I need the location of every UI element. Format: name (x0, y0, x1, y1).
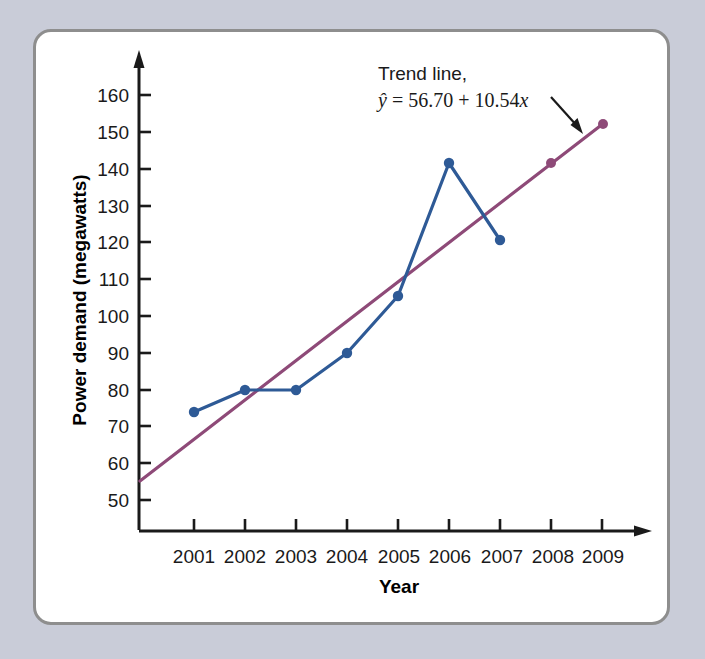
y-axis-ticks (139, 95, 151, 500)
y-tick-label-150: 150 (97, 122, 129, 143)
x-tick-label-2002: 2002 (224, 546, 266, 567)
y-axis-tick-labels: 50 60 70 80 90 100 110 120 130 140 150 1… (97, 85, 129, 511)
power-demand-chart: 50 60 70 80 90 100 110 120 130 140 150 1… (0, 0, 705, 659)
x-tick-label-2009: 2009 (582, 546, 624, 567)
trend-line-annotation: Trend line, ŷ = 56.70 + 10.54x (376, 63, 583, 134)
x-axis-arrowhead (634, 526, 652, 537)
y-tick-label-90: 90 (108, 343, 129, 364)
data-point-2006 (444, 158, 454, 168)
annotation-equation-rest: = 56.70 + 10.54 (387, 89, 520, 111)
y-tick-label-100: 100 (97, 306, 129, 327)
annotation-line-1: Trend line, (378, 63, 467, 84)
x-axis-tick-labels: 2001 2002 2003 2004 2005 2006 2007 2008 … (173, 546, 624, 567)
data-point-2007 (495, 235, 505, 245)
y-tick-label-60: 60 (108, 453, 129, 474)
x-tick-label-2005: 2005 (378, 546, 420, 567)
x-tick-label-2006: 2006 (429, 546, 471, 567)
y-tick-label-70: 70 (108, 416, 129, 437)
x-tick-label-2008: 2008 (532, 546, 574, 567)
y-axis-title: Power demand (megawatts) (69, 174, 90, 425)
x-axis-ticks (194, 519, 602, 531)
x-axis-title: Year (379, 576, 420, 597)
annotation-equation-var: x (518, 89, 528, 111)
data-point-2004 (342, 348, 352, 358)
y-tick-label-140: 140 (97, 159, 129, 180)
trend-point-2008 (546, 158, 556, 168)
x-axis: 2001 2002 2003 2004 2005 2006 2007 2008 … (139, 519, 652, 597)
x-tick-label-2004: 2004 (326, 546, 369, 567)
power-demand-line (194, 163, 500, 412)
trend-point-2009 (598, 119, 608, 129)
trend-line-series (140, 119, 608, 481)
y-tick-label-130: 130 (97, 196, 129, 217)
data-point-2002 (240, 385, 250, 395)
x-tick-label-2003: 2003 (275, 546, 317, 567)
data-point-2003 (291, 385, 301, 395)
y-axis-arrowhead (134, 50, 145, 68)
x-tick-label-2007: 2007 (481, 546, 523, 567)
y-tick-label-160: 160 (97, 85, 129, 106)
y-axis: 50 60 70 80 90 100 110 120 130 140 150 1… (69, 50, 151, 530)
annotation-equation-yhat: ŷ (376, 89, 387, 112)
y-tick-label-50: 50 (108, 490, 129, 511)
y-tick-label-120: 120 (97, 232, 129, 253)
power-demand-series (189, 158, 505, 417)
data-point-2005 (393, 291, 403, 301)
y-tick-label-80: 80 (108, 380, 129, 401)
y-tick-label-110: 110 (99, 269, 129, 290)
trend-line (140, 123, 604, 481)
data-point-2001 (189, 407, 199, 417)
annotation-equation: ŷ = 56.70 + 10.54x (376, 89, 528, 112)
x-tick-label-2001: 2001 (173, 546, 215, 567)
